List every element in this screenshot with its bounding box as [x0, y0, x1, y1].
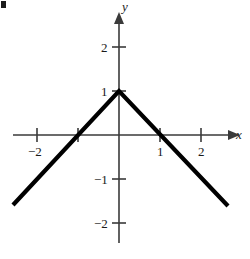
y-tick-label-1: 1 [101, 85, 108, 98]
y-axis-label: y [122, 0, 128, 13]
x-tick-label-neg2: −2 [28, 145, 42, 158]
coordinate-plane-svg [0, 0, 250, 259]
graph-figure: y x −2 1 2 2 1 −1 −2 [0, 0, 250, 259]
x-tick-label-1: 1 [157, 145, 164, 158]
curve-absolute-value [13, 91, 228, 206]
x-axis-label: x [236, 128, 242, 141]
y-tick-label-neg1: −1 [94, 173, 108, 186]
y-tick-label-neg2: −2 [94, 217, 108, 230]
y-tick-label-2: 2 [101, 41, 108, 54]
x-tick-label-2: 2 [198, 145, 205, 158]
